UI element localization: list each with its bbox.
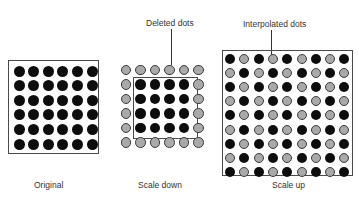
deleted-dot-icon <box>164 65 175 76</box>
deleted-dot-icon <box>121 108 132 119</box>
interpolated-dot-icon <box>325 139 335 149</box>
original-dot-icon <box>225 167 235 177</box>
original-dot-icon <box>72 124 83 135</box>
kept-dot-icon <box>150 108 161 119</box>
original-dot-icon <box>28 95 39 106</box>
original-dot-icon <box>28 139 39 150</box>
interpolated-dot-icon <box>254 68 264 78</box>
original-dot-icon <box>311 54 321 64</box>
scale-down-caption: Scale down <box>138 180 182 190</box>
original-dot-icon <box>339 139 349 149</box>
interpolated-dot-icon <box>339 125 349 135</box>
kept-dot-icon <box>179 79 190 90</box>
original-dot-icon <box>268 68 278 78</box>
original-dot-icon <box>43 124 54 135</box>
kept-dot-icon <box>135 94 146 105</box>
interpolated-dot-icon <box>225 125 235 135</box>
original-dot-icon <box>87 95 98 106</box>
original-dot-icon <box>28 66 39 77</box>
original-dot-icon <box>254 139 264 149</box>
interpolated-dot-icon <box>311 68 321 78</box>
interpolated-dot-icon <box>297 54 307 64</box>
original-dot-icon <box>72 95 83 106</box>
original-dot-icon <box>43 95 54 106</box>
interpolated-dot-icon <box>297 82 307 92</box>
interpolated-dot-icon <box>282 153 292 163</box>
original-dot-icon <box>72 139 83 150</box>
original-dot-icon <box>311 139 321 149</box>
original-dot-icon <box>268 153 278 163</box>
kept-dot-icon <box>164 79 175 90</box>
original-dot-icon <box>297 68 307 78</box>
deleted-dot-icon <box>121 65 132 76</box>
original-dot-icon <box>325 153 335 163</box>
original-dot-icon <box>87 80 98 91</box>
original-dot-icon <box>297 153 307 163</box>
original-dot-icon <box>254 167 264 177</box>
deleted-dot-icon <box>121 137 132 148</box>
interpolated-dot-icon <box>297 167 307 177</box>
original-dot-icon <box>225 54 235 64</box>
original-dot-icon <box>43 66 54 77</box>
original-dot-icon <box>43 139 54 150</box>
deleted-dot-icon <box>150 137 161 148</box>
original-dot-icon <box>297 125 307 135</box>
original-dot-icon <box>43 80 54 91</box>
interpolated-dot-icon <box>254 153 264 163</box>
original-dot-icon <box>297 96 307 106</box>
original-dot-icon <box>225 139 235 149</box>
deleted-dot-icon <box>193 65 204 76</box>
original-dot-icon <box>72 80 83 91</box>
interpolated-dot-icon <box>268 54 278 64</box>
deleted-dot-icon <box>193 137 204 148</box>
kept-dot-icon <box>164 123 175 134</box>
original-dot-icon <box>14 66 25 77</box>
original-dot-icon <box>43 109 54 120</box>
original-dot-icon <box>57 139 68 150</box>
original-dot-icon <box>239 125 249 135</box>
original-dot-icon <box>72 66 83 77</box>
interpolated-dot-icon <box>297 139 307 149</box>
deleted-dot-icon <box>150 65 161 76</box>
deleted-dot-icon <box>121 123 132 134</box>
interpolated-dot-icon <box>254 125 264 135</box>
deleted-dots-callout: Deleted dots <box>146 18 194 28</box>
original-dot-icon <box>14 80 25 91</box>
interpolated-dot-icon <box>239 139 249 149</box>
original-dot-icon <box>87 139 98 150</box>
interpolated-dot-icon <box>325 167 335 177</box>
interpolated-dots-callout: Interpolated dots <box>243 19 306 29</box>
interpolated-dot-icon <box>268 139 278 149</box>
interpolated-dot-icon <box>225 153 235 163</box>
deleted-dot-icon <box>193 108 204 119</box>
deleted-dot-icon <box>179 65 190 76</box>
kept-dot-icon <box>135 108 146 119</box>
kept-dot-icon <box>179 108 190 119</box>
deleted-dot-icon <box>193 94 204 105</box>
deleted-dot-icon <box>121 79 132 90</box>
kept-dot-icon <box>164 94 175 105</box>
original-dot-icon <box>311 82 321 92</box>
original-dot-icon <box>311 167 321 177</box>
original-dot-icon <box>325 125 335 135</box>
original-dot-icon <box>254 110 264 120</box>
original-dot-icon <box>14 139 25 150</box>
original-dot-icon <box>254 82 264 92</box>
interpolated-dot-icon <box>311 153 321 163</box>
original-dot-icon <box>254 54 264 64</box>
scale-up-caption: Scale up <box>272 180 305 190</box>
interpolated-dot-icon <box>254 96 264 106</box>
interpolated-dot-icon <box>282 125 292 135</box>
interpolated-dot-icon <box>268 167 278 177</box>
original-dot-icon <box>239 153 249 163</box>
deleted-dot-icon <box>193 79 204 90</box>
original-dot-icon <box>282 167 292 177</box>
original-dot-icon <box>57 66 68 77</box>
original-caption: Original <box>34 180 63 190</box>
original-dot-icon <box>14 109 25 120</box>
original-dot-icon <box>87 66 98 77</box>
original-dot-icon <box>282 139 292 149</box>
kept-dot-icon <box>164 108 175 119</box>
original-dot-icon <box>14 95 25 106</box>
deleted-dot-icon <box>121 94 132 105</box>
